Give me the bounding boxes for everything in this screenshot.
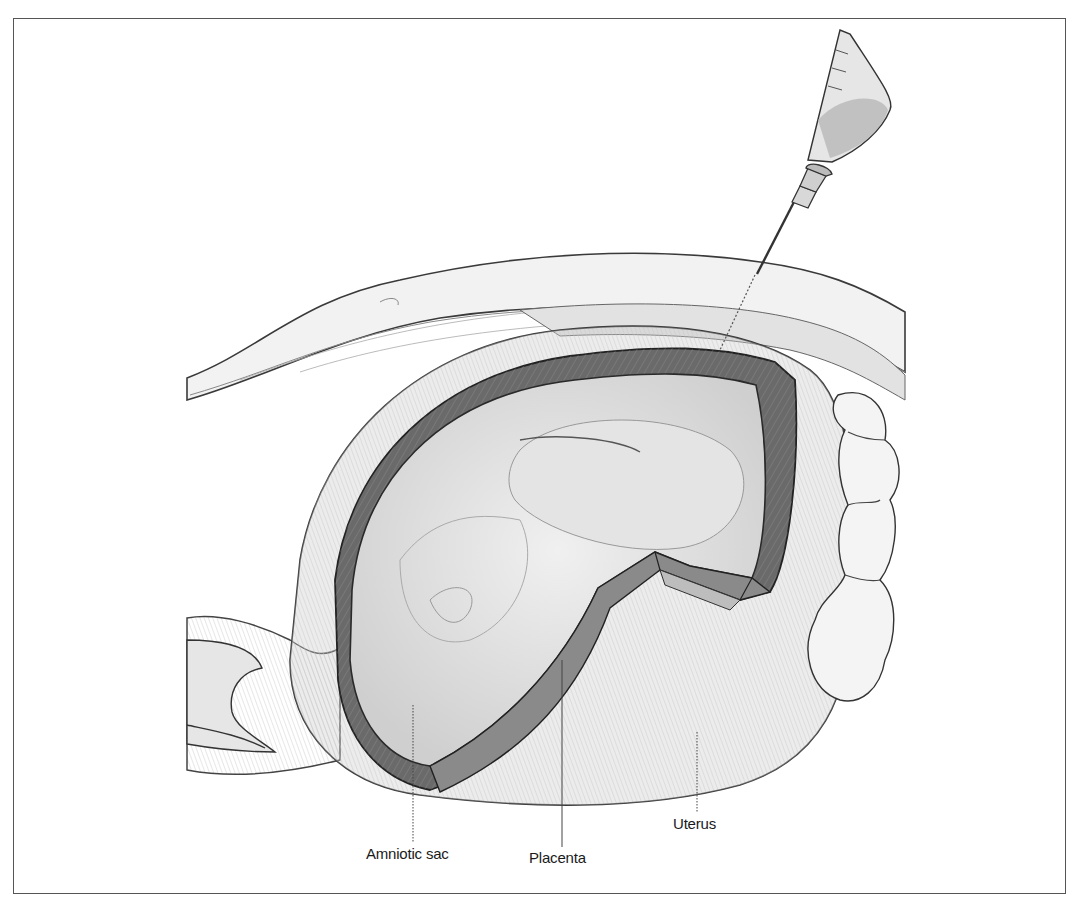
- amniocentesis-illustration: [0, 0, 1080, 900]
- label-placenta: Placenta: [529, 849, 586, 866]
- label-uterus: Uterus: [673, 815, 716, 832]
- label-amniotic-sac: Amniotic sac: [366, 845, 449, 862]
